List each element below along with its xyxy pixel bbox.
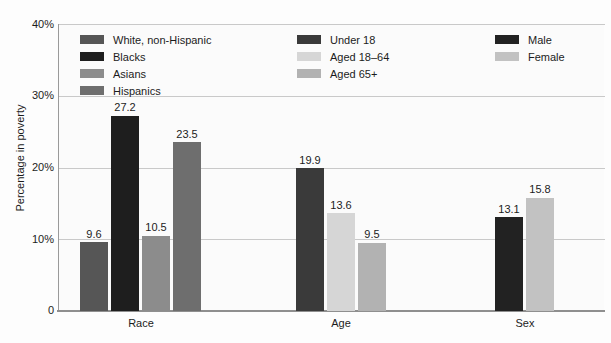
legend-item-hispanics[interactable]: Hispanics	[80, 83, 211, 98]
bar-value-hispanics: 23.5	[163, 128, 211, 140]
race-legend: White, non-Hispanic Blacks Asians Hispan…	[80, 32, 211, 100]
bar-female	[526, 198, 554, 311]
bar-value-female: 15.8	[516, 183, 564, 195]
x-category-race: Race	[116, 317, 166, 329]
legend-swatch-aged-18-64	[297, 52, 321, 61]
legend-label-under-18: Under 18	[330, 34, 375, 46]
legend-swatch-under-18	[297, 35, 321, 44]
legend-swatch-male	[495, 35, 519, 44]
legend-item-aged-18-64[interactable]: Aged 18–64	[297, 49, 389, 64]
bar-aged-65-plus	[358, 243, 386, 311]
legend-item-blacks[interactable]: Blacks	[80, 49, 211, 64]
age-legend: Under 18 Aged 18–64 Aged 65+	[297, 32, 389, 83]
gridline-20	[59, 168, 605, 169]
legend-swatch-asians	[80, 69, 104, 78]
poverty-bar-chart: 40% 30% 20% 10% 0 Percentage in poverty …	[0, 0, 611, 343]
legend-swatch-hispanics	[80, 86, 104, 95]
bar-value-under-18: 19.9	[286, 154, 334, 166]
x-category-sex: Sex	[500, 317, 550, 329]
bar-male	[495, 217, 523, 311]
legend-item-asians[interactable]: Asians	[80, 66, 211, 81]
bar-asians	[142, 236, 170, 311]
y-axis: 40% 30% 20% 10% 0 Percentage in poverty	[0, 0, 54, 343]
x-category-age: Age	[316, 317, 366, 329]
legend-label-aged-18-64: Aged 18–64	[330, 51, 389, 63]
bar-hispanics	[173, 142, 201, 311]
bar-value-blacks: 27.2	[101, 101, 149, 113]
bar-blacks	[111, 116, 139, 311]
legend-item-aged-65-plus[interactable]: Aged 65+	[297, 66, 389, 81]
legend-swatch-white-non-hispanic	[80, 35, 104, 44]
legend-item-white-non-hispanic[interactable]: White, non-Hispanic	[80, 32, 211, 47]
bar-value-aged-65-plus: 9.5	[348, 228, 396, 240]
legend-swatch-aged-65-plus	[297, 69, 321, 78]
legend-label-aged-65-plus: Aged 65+	[330, 68, 377, 80]
legend-item-under-18[interactable]: Under 18	[297, 32, 389, 47]
legend-label-hispanics: Hispanics	[113, 85, 161, 97]
y-tick-0: 0	[6, 305, 54, 315]
legend-swatch-female	[495, 52, 519, 61]
y-axis-title: Percentage in poverty	[14, 78, 26, 238]
legend-label-male: Male	[528, 34, 552, 46]
y-tick-40: 40%	[6, 19, 54, 29]
sex-legend: Male Female	[495, 32, 565, 66]
legend-item-female[interactable]: Female	[495, 49, 565, 64]
legend-label-blacks: Blacks	[113, 51, 145, 63]
gridline-40	[59, 24, 605, 25]
legend-label-white-non-hispanic: White, non-Hispanic	[113, 34, 211, 46]
legend-item-male[interactable]: Male	[495, 32, 565, 47]
bar-value-aged-18-64: 13.6	[317, 199, 365, 211]
bar-under-18	[296, 168, 324, 311]
bar-white-non-hispanic	[80, 242, 108, 311]
legend-label-asians: Asians	[113, 68, 146, 80]
legend-label-female: Female	[528, 51, 565, 63]
legend-swatch-blacks	[80, 52, 104, 61]
